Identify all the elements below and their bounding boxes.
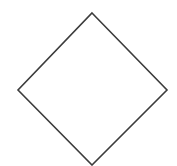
diamond-icon (18, 13, 167, 165)
drawing-canvas (0, 0, 177, 166)
diamond-figure (0, 0, 177, 166)
